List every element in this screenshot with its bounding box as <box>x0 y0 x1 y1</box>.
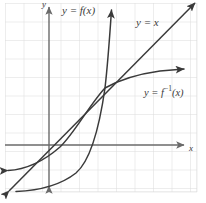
grid-border-bottom <box>5 192 197 193</box>
inverse-label-prefix: y = f <box>144 87 164 98</box>
inverse-label-suffix: (x) <box>172 87 184 98</box>
identity-line-label: y = x <box>136 17 159 28</box>
function-label: y = f(x) <box>62 5 95 16</box>
graph-canvas <box>0 0 206 203</box>
y-axis-label: y <box>42 0 46 9</box>
x-axis-label: x <box>189 144 193 153</box>
grid-border-right <box>197 3 198 192</box>
inverse-function-label: y = f−1(x) <box>144 85 184 98</box>
function-inverse-graph-figure: y x y = f(x) y = x y = f−1(x) <box>0 0 206 203</box>
inverse-label-exponent: −1 <box>164 84 172 93</box>
